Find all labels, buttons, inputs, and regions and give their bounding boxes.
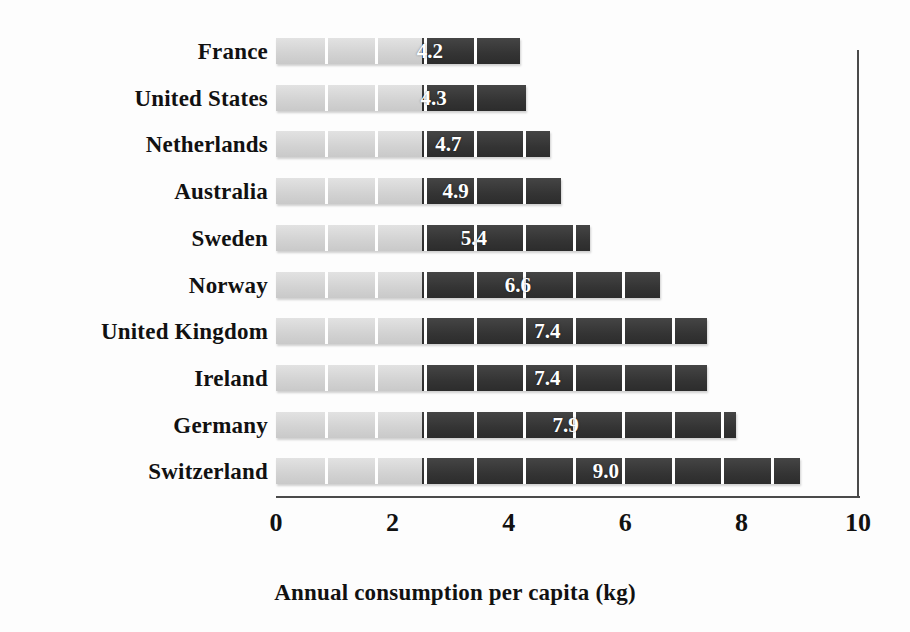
bar-segment-divider	[672, 412, 675, 438]
bar-segment-divider	[375, 38, 378, 64]
bar-segment-light	[276, 318, 422, 344]
bar-segment-divider	[523, 458, 526, 484]
bar-segment-divider	[622, 272, 625, 298]
bar-segment-divider	[325, 412, 328, 438]
category-label: United States	[8, 86, 268, 111]
bar-segment-light	[276, 412, 422, 438]
bar-segment-divider	[375, 318, 378, 344]
bar-segment-divider	[424, 225, 427, 251]
bar-segment-divider	[424, 365, 427, 391]
category-label: Norway	[8, 273, 268, 298]
x-axis-tick-labels: 0246810	[0, 508, 910, 544]
bar[interactable]: 7.9	[276, 412, 736, 438]
bar[interactable]: 9.0	[276, 458, 800, 484]
bar-segment-divider	[424, 272, 427, 298]
bar-segment-divider	[474, 131, 477, 157]
bar-segment-divider	[474, 38, 477, 64]
bar-value-label: 9.0	[583, 458, 629, 484]
bar-segment-divider	[375, 225, 378, 251]
bar-segment-divider	[721, 458, 724, 484]
bar-segment-divider	[672, 458, 675, 484]
bar[interactable]: 4.3	[276, 85, 526, 111]
bar-segment-divider	[523, 225, 526, 251]
bar[interactable]: 7.4	[276, 365, 707, 391]
bar-segment-divider	[622, 412, 625, 438]
bar-segment-divider	[573, 318, 576, 344]
bar-value-label: 7.4	[524, 318, 570, 344]
bar-segment-light	[276, 225, 422, 251]
category-label: Ireland	[8, 366, 268, 391]
bar-segment-divider	[573, 225, 576, 251]
bar-value-label: 4.9	[433, 178, 479, 204]
bar-segment-divider	[474, 272, 477, 298]
category-label: Netherlands	[8, 132, 268, 157]
bar-segment-divider	[375, 85, 378, 111]
bar[interactable]: 6.6	[276, 272, 660, 298]
bar-value-label: 4.3	[411, 85, 457, 111]
bar-segment-light	[276, 458, 422, 484]
bar-segment-divider	[424, 412, 427, 438]
bar-segment-divider	[375, 458, 378, 484]
bar-segment-divider	[474, 365, 477, 391]
bar[interactable]: 4.7	[276, 131, 550, 157]
bar-segment-divider	[375, 365, 378, 391]
bar-segment-divider	[573, 272, 576, 298]
bar-segment-light	[276, 38, 422, 64]
x-tick-label: 8	[712, 508, 772, 538]
x-axis-line	[276, 496, 860, 498]
bar-segment-divider	[325, 225, 328, 251]
bar-segment-divider	[375, 131, 378, 157]
x-tick-label: 4	[479, 508, 539, 538]
right-axis-line	[857, 50, 859, 498]
bar-segment-light	[276, 178, 422, 204]
bar-segment-light	[276, 131, 422, 157]
category-label: France	[8, 39, 268, 64]
bar-segment-divider	[474, 318, 477, 344]
bar-segment-divider	[622, 365, 625, 391]
bar-segment-divider	[672, 365, 675, 391]
bar[interactable]: 4.9	[276, 178, 561, 204]
x-tick-label: 0	[246, 508, 306, 538]
bar-segment-divider	[325, 85, 328, 111]
bar-segment-divider	[523, 178, 526, 204]
bar-segment-dark	[422, 225, 591, 251]
bar[interactable]: 5.4	[276, 225, 590, 251]
bar-segment-divider	[474, 85, 477, 111]
bar-segment-divider	[523, 131, 526, 157]
bar-segment-divider	[622, 318, 625, 344]
bar-segment-light	[276, 272, 422, 298]
chart-page: FranceUnited StatesNetherlandsAustraliaS…	[0, 0, 910, 632]
bar-segment-divider	[325, 318, 328, 344]
bar-value-label: 4.2	[407, 38, 453, 64]
x-tick-label: 2	[362, 508, 422, 538]
bar-segment-divider	[573, 365, 576, 391]
bar[interactable]: 7.4	[276, 318, 707, 344]
bar-segment-divider	[325, 365, 328, 391]
bar[interactable]: 4.2	[276, 38, 520, 64]
bar-segment-divider	[325, 131, 328, 157]
category-axis-labels: FranceUnited StatesNetherlandsAustraliaS…	[0, 30, 268, 497]
bar-segment-divider	[424, 318, 427, 344]
bar-segment-divider	[771, 458, 774, 484]
bar-segment-divider	[325, 272, 328, 298]
bar-segment-divider	[375, 178, 378, 204]
bar-segment-light	[276, 85, 422, 111]
bar-segment-divider	[424, 458, 427, 484]
bar-segment-divider	[375, 412, 378, 438]
x-tick-label: 6	[595, 508, 655, 538]
bar-segment-divider	[474, 458, 477, 484]
bar-value-label: 7.9	[543, 412, 589, 438]
category-label: Switzerland	[8, 459, 268, 484]
bar-segment-divider	[721, 412, 724, 438]
bar-segment-divider	[474, 412, 477, 438]
bar-value-label: 5.4	[451, 225, 497, 251]
bar-segment-divider	[325, 458, 328, 484]
category-label: United Kingdom	[8, 319, 268, 344]
plot-area: 4.24.34.74.95.46.67.47.47.99.0	[276, 30, 858, 497]
bar-segment-divider	[424, 178, 427, 204]
bar-value-label: 4.7	[425, 131, 471, 157]
bar-segment-divider	[573, 458, 576, 484]
bar-segment-divider	[523, 412, 526, 438]
bar-segment-light	[276, 365, 422, 391]
category-label: Sweden	[8, 226, 268, 251]
